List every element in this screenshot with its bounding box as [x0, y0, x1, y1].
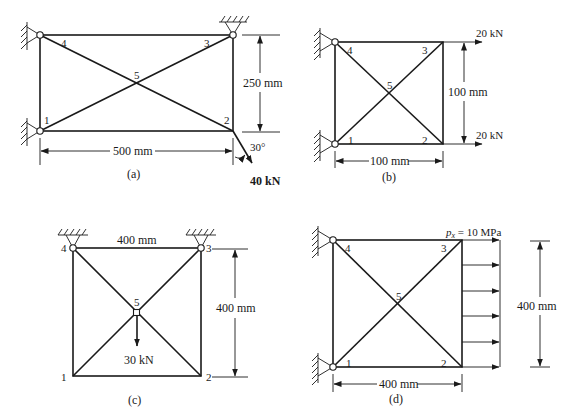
- height-dimension: 100 mm: [448, 85, 488, 99]
- node-label: 1: [348, 134, 354, 146]
- node-label: 3: [204, 37, 210, 49]
- node-label: 2: [224, 114, 230, 126]
- height-dimension: 250 mm: [243, 76, 283, 90]
- figure-caption: (a): [127, 167, 140, 181]
- width-dimension: 500 mm: [113, 144, 153, 158]
- node-label: 2: [441, 357, 447, 369]
- node-label: 5: [134, 296, 140, 308]
- figure-b: 4 3 5 1 2 20 kN 20 kN 100 mm 100 mm (b): [314, 27, 503, 184]
- figure-caption: (b): [382, 170, 396, 184]
- node-label: 4: [61, 242, 67, 254]
- node-label: 3: [422, 44, 428, 56]
- figure-c: 4 3 5 1 2 400 mm 30 kN 400 mm (c): [58, 229, 256, 407]
- force-label: 30 kN: [124, 353, 154, 367]
- node-label: 5: [134, 69, 140, 81]
- node-label: 1: [61, 371, 67, 383]
- force-label: 40 kN: [250, 174, 281, 188]
- angle-label: 30°: [250, 141, 265, 153]
- figure-caption: (c): [128, 393, 141, 407]
- node-label: 2: [206, 371, 212, 383]
- node-label: 4: [61, 37, 67, 49]
- pressure-label: px = 10 MPa: [445, 226, 501, 240]
- distributed-load-arrows-icon: [462, 240, 500, 367]
- height-dimension: 400 mm: [216, 301, 256, 315]
- height-dimension: 400 mm: [517, 299, 557, 313]
- node-label: 5: [396, 290, 402, 302]
- node-label: 4: [347, 44, 353, 56]
- node-label: 5: [387, 79, 393, 91]
- width-dimension: 400 mm: [379, 377, 419, 391]
- node-label: 1: [346, 357, 352, 369]
- node-label: 3: [441, 242, 447, 254]
- node-label: 3: [206, 242, 212, 254]
- node-label: 4: [345, 242, 351, 254]
- width-dimension: 400 mm: [117, 233, 157, 247]
- figure-d: 4 3 5 1 2 px = 10 MPa 400 mm 400 mm (d): [312, 226, 557, 406]
- node-label: 1: [44, 114, 50, 126]
- force-label: 20 kN: [476, 27, 503, 39]
- truss-figures: 4 3 5 1 2 250 mm 500 mm 30° 40 kN (a): [0, 0, 571, 410]
- node-label: 2: [422, 134, 428, 146]
- figure-a: 4 3 5 1 2 250 mm 500 mm 30° 40 kN (a): [21, 16, 283, 188]
- width-dimension: 100 mm: [370, 154, 410, 168]
- force-label: 20 kN: [476, 129, 503, 141]
- figure-caption: (d): [389, 392, 403, 406]
